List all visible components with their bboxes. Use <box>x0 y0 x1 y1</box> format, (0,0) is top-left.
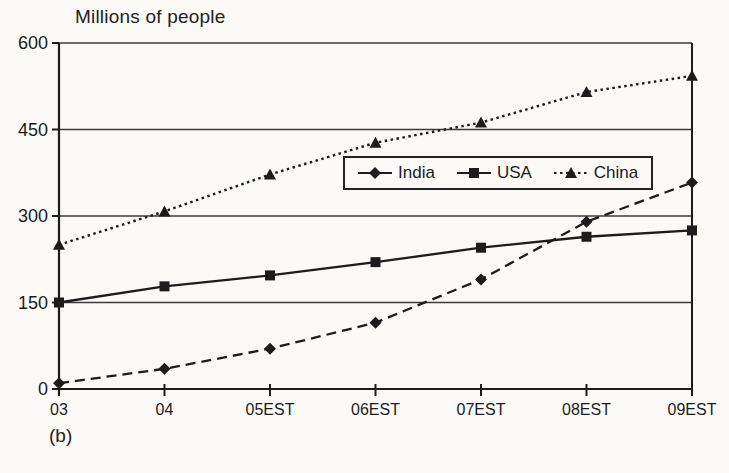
india-point-marker <box>686 177 698 189</box>
india-point-marker <box>370 317 382 329</box>
legend-item-usa: USA <box>457 163 532 183</box>
x-tick-label: 04 <box>156 401 174 418</box>
usa-point-marker <box>582 232 592 242</box>
india-line <box>59 183 692 384</box>
figure-caption: (b) <box>49 425 72 447</box>
india-point-marker <box>475 273 487 285</box>
x-tick-label: 06EST <box>351 401 400 418</box>
india-point-marker <box>53 377 65 389</box>
usa-point-marker <box>687 225 697 235</box>
usa-point-marker <box>476 243 486 253</box>
diamond-marker-icon <box>358 166 392 180</box>
y-tick-label: 0 <box>38 379 48 399</box>
usa-point-marker <box>265 270 275 280</box>
china-point-marker <box>53 239 65 250</box>
x-tick-label: 03 <box>50 401 68 418</box>
x-tick-label: 05EST <box>246 401 295 418</box>
legend-label: USA <box>497 163 532 183</box>
x-tick-label: 07EST <box>457 401 506 418</box>
x-tick-label: 09EST <box>668 401 717 418</box>
chart-legend: IndiaUSAChina <box>343 156 653 190</box>
legend-item-china: China <box>554 163 638 183</box>
y-tick-label: 300 <box>18 206 48 226</box>
india-point-marker <box>264 343 276 355</box>
y-tick-label: 450 <box>18 120 48 140</box>
usa-point-marker <box>54 298 64 308</box>
legend-label: India <box>398 163 435 183</box>
y-tick-label: 150 <box>18 293 48 313</box>
y-tick-label: 600 <box>18 33 48 53</box>
china-point-marker <box>686 70 698 81</box>
chart-figure: Millions of people 0150300450600030405ES… <box>0 0 729 473</box>
usa-point-marker <box>160 281 170 291</box>
china-point-marker <box>264 168 276 179</box>
square-marker-icon <box>457 166 491 180</box>
x-tick-label: 08EST <box>562 401 611 418</box>
diamond-marker-glyph <box>369 167 381 179</box>
line-chart-canvas: 0150300450600030405EST06EST07EST08EST09E… <box>0 0 729 473</box>
usa-point-marker <box>371 257 381 267</box>
legend-item-india: India <box>358 163 435 183</box>
india-point-marker <box>581 216 593 228</box>
india-point-marker <box>159 363 171 375</box>
triangle-marker-icon <box>554 166 588 180</box>
legend-label: China <box>594 163 638 183</box>
square-marker-glyph <box>469 168 479 178</box>
